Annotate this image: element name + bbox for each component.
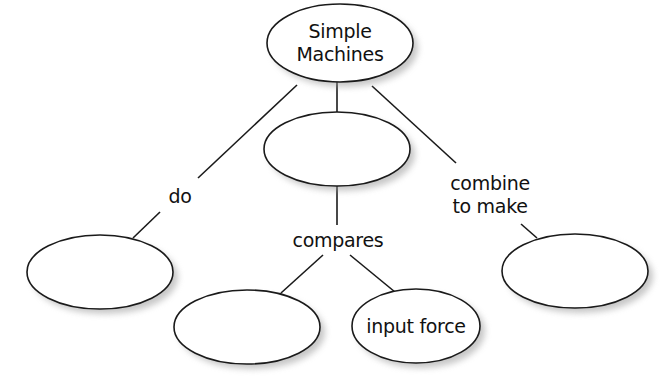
node-label-simple-machines: Simple Machines [296, 20, 383, 66]
edge-label-combine-to-make: combine to make [450, 172, 530, 218]
edge-combine-label-to-right [521, 224, 537, 238]
node-label-input-force: input force [366, 315, 465, 338]
node-label-line-1: Simple [296, 20, 383, 43]
edge-compares-to-input-force [350, 255, 395, 292]
edge-do-label-to-left [133, 212, 160, 238]
edge-label-line-1: combine [450, 172, 530, 195]
edge-label-line-2: to make [450, 195, 530, 218]
edge-compares-to-bottom-left [281, 255, 323, 293]
node-right-blank [502, 234, 648, 308]
node-left-blank [27, 235, 173, 309]
node-bottom-left-blank [174, 290, 320, 364]
node-middle-blank [264, 112, 410, 186]
node-label-line-2: Machines [296, 43, 383, 66]
edge-label-compares: compares [293, 229, 384, 252]
edge-label-do: do [168, 185, 191, 208]
